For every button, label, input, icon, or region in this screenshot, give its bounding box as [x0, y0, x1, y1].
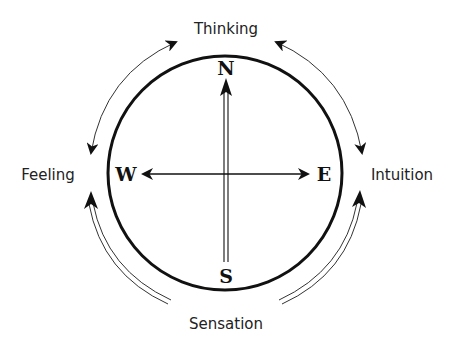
thinking-feeling-arrow [91, 42, 176, 153]
compass-diagram: N W E S Thinking Feeling Intuition Sensa… [0, 0, 459, 346]
south-north-arrow [220, 78, 232, 262]
direction-east: E [317, 163, 331, 185]
feeling-arrowhead [84, 191, 98, 209]
direction-south: S [219, 265, 233, 287]
sensation-intuition-arrow [279, 190, 366, 304]
thinking-intuition-arrow [276, 42, 362, 153]
function-feeling: Feeling [21, 166, 75, 184]
north-arrowhead [220, 78, 232, 96]
function-thinking: Thinking [193, 20, 258, 38]
sensation-feeling-arrow [84, 191, 171, 304]
intuition-arrowhead [352, 190, 366, 208]
function-sensation: Sensation [189, 315, 263, 333]
direction-west: W [114, 163, 137, 185]
direction-north: N [217, 57, 234, 79]
function-intuition: Intuition [371, 166, 433, 184]
